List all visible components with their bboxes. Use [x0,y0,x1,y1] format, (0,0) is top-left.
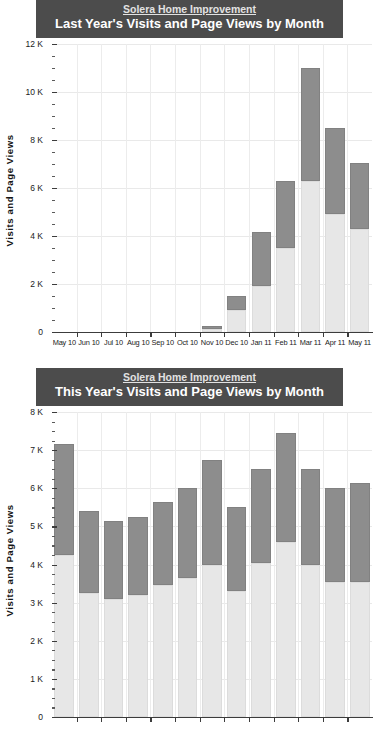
y-tick-label: 7 K [30,445,43,455]
grid-line-vertical [224,412,225,717]
bar-segment-page-views[interactable] [276,433,296,542]
bar-segment-page-views[interactable] [153,502,173,586]
y-axis-minor-tick [52,80,55,81]
grid-line-vertical [347,44,348,332]
bar-stack[interactable] [252,44,271,332]
bar-stack[interactable] [350,412,370,717]
bar-stack[interactable] [153,412,173,717]
bar-segment-visits[interactable] [153,585,173,717]
bar-segment-visits[interactable] [350,229,369,332]
x-tick-label: May 11 [348,338,371,347]
bar-stack[interactable] [350,44,369,332]
bar-segment-page-views[interactable] [178,488,198,578]
y-axis-tick [52,641,57,642]
bar-segment-page-views[interactable] [251,469,271,562]
y-axis-minor-tick [52,545,55,546]
bar-segment-page-views[interactable] [54,444,74,555]
y-tick-label: 8 K [30,135,43,145]
grid-line-vertical [298,412,299,717]
bar-segment-page-views[interactable] [252,232,271,286]
y-tick-label: 8 K [30,407,43,417]
bar-segment-visits[interactable] [202,329,221,332]
bar-stack[interactable] [325,412,345,717]
bar-stack[interactable] [276,412,296,717]
y-axis-tick [52,488,57,489]
bar-segment-visits[interactable] [251,563,271,717]
y-axis-minor-tick [52,669,55,670]
bar-stack[interactable] [202,44,221,332]
bar-segment-visits[interactable] [276,542,296,717]
plot-area-last-year: Visits and Page Views 02 K4 K6 K8 K10 K1… [0,38,379,356]
bar-stack[interactable] [227,412,247,717]
bar-stack[interactable] [104,412,124,717]
x-axis-tick [175,718,176,722]
bar-segment-visits[interactable] [301,181,320,332]
bar-segment-visits[interactable] [54,555,74,717]
x-axis-tick [274,718,275,722]
y-axis-minor-tick [52,164,55,165]
bar-stack[interactable] [54,412,74,717]
y-axis-tick [52,236,57,237]
y-axis-minor-tick [52,116,55,117]
x-tick-label: Feb 11 [275,338,297,347]
bar-segment-page-views[interactable] [202,460,222,565]
bar-segment-visits[interactable] [301,565,321,718]
bar-segment-visits[interactable] [325,214,344,332]
bar-stack[interactable] [227,44,246,332]
bar-segment-visits[interactable] [79,593,99,717]
bar-stack[interactable] [79,412,99,717]
bar-segment-visits[interactable] [252,286,271,332]
bar-stack[interactable] [325,44,344,332]
bar-stack[interactable] [276,44,295,332]
bar-segment-page-views[interactable] [79,511,99,593]
x-tick-label: Apr 11 [325,338,345,347]
chart-panel-last-year: Solera Home Improvement Last Year's Visi… [0,0,379,368]
bar-segment-page-views[interactable] [301,469,321,564]
bar-segment-page-views[interactable] [104,521,124,599]
bar-segment-visits[interactable] [128,595,148,717]
y-axis-minor-tick [52,479,55,480]
grid-line-vertical [175,412,176,717]
bar-stack[interactable] [202,412,222,717]
bar-segment-page-views[interactable] [276,181,295,248]
bar-segment-visits[interactable] [276,248,295,332]
x-axis-tick [274,333,275,337]
bar-segment-visits[interactable] [178,578,198,717]
y-tick-label: 6 K [30,483,43,493]
bar-segment-visits[interactable] [350,582,370,717]
bar-segment-page-views[interactable] [227,507,247,591]
bar-segment-visits[interactable] [227,591,247,717]
bar-segment-visits[interactable] [104,599,124,717]
y-axis-minor-tick [52,56,55,57]
grid-line-vertical [298,44,299,332]
chart-subtitle: Last Year's Visits and Page Views by Mon… [36,15,343,32]
bar-stack[interactable] [251,412,271,717]
bar-stack[interactable] [301,44,320,332]
y-axis-minor-tick [52,200,55,201]
bar-segment-visits[interactable] [227,310,246,332]
bar-segment-page-views[interactable] [202,326,221,329]
bar-stack[interactable] [178,412,198,717]
grid-line-vertical [150,412,151,717]
y-axis-minor-tick [52,593,55,594]
bar-segment-page-views[interactable] [350,163,369,229]
bar-segment-page-views[interactable] [128,517,148,595]
x-axis-tick [249,333,250,337]
y-axis-minor-tick [52,272,55,273]
bar-segment-page-views[interactable] [350,483,370,582]
bar-segment-page-views[interactable] [325,488,345,581]
bar-segment-page-views[interactable] [301,68,320,181]
bar-segment-page-views[interactable] [227,296,246,310]
bar-stack[interactable] [301,412,321,717]
x-axis-tick [347,718,348,722]
bar-segment-visits[interactable] [202,565,222,718]
chart-header-this-year: Solera Home Improvement This Year's Visi… [36,368,343,406]
x-axis-tick [101,718,102,722]
x-axis-tick [323,718,324,722]
bar-stack[interactable] [128,412,148,717]
bar-segment-page-views[interactable] [325,128,344,214]
y-axis-minor-tick [52,68,55,69]
x-axis-tick [298,718,299,722]
bar-segment-visits[interactable] [325,582,345,717]
grid-line-vertical [126,44,127,332]
